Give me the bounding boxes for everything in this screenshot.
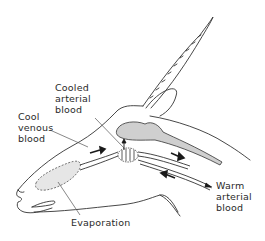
horn [143, 17, 213, 108]
venous-flow-arrow-icon [90, 147, 105, 153]
label-cool-venous-blood: Cool venous blood [18, 111, 53, 144]
carotid-rete [118, 148, 138, 162]
ear [146, 89, 177, 116]
brain-region [116, 122, 222, 165]
label-cooled-arterial-blood: Cooled arterial blood [55, 82, 91, 115]
warm-arterial-flow-arrow-icon [161, 171, 175, 178]
brain-supply-arrow-icon [122, 139, 126, 150]
label-warm-arterial-blood: Warm arterial blood [216, 180, 252, 213]
mouth [32, 201, 55, 207]
warm-arterial-inflow-arrow-icon [205, 183, 211, 187]
cooled-arterial-flow-arrow-icon [171, 153, 184, 160]
warm-artery [138, 160, 212, 187]
leader-cool-venous [50, 130, 88, 147]
label-evaporation: Evaporation [71, 217, 130, 228]
diagram-canvas: Cooled arterial blood Cool venous blood … [0, 0, 265, 241]
